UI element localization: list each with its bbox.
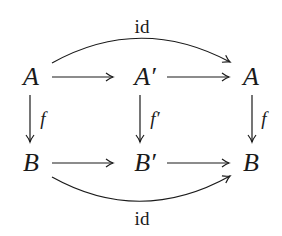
node-B-bot-right: B bbox=[243, 150, 259, 176]
node-Aprime-top-mid: A′ bbox=[134, 64, 156, 90]
arrow-top-id bbox=[52, 38, 230, 63]
label-f-left: f bbox=[40, 109, 45, 128]
node-A-top-left: A bbox=[23, 64, 39, 90]
label-top-id: id bbox=[135, 17, 150, 36]
label-bottom-id: id bbox=[135, 209, 150, 228]
arrow-bottom-id bbox=[52, 176, 230, 201]
label-fprime-mid: f′ bbox=[150, 109, 159, 128]
node-Bprime-bot-mid: B′ bbox=[134, 150, 156, 176]
node-B-bot-left: B bbox=[23, 150, 39, 176]
label-f-right: f bbox=[261, 109, 266, 128]
node-A-top-right: A bbox=[243, 64, 259, 90]
